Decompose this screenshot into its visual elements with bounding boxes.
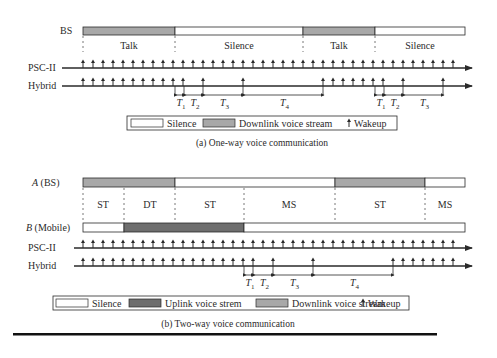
wakeup-arrow-icon — [421, 258, 425, 267]
state-labels: STDTSTMSSTMS — [97, 199, 452, 210]
wakeup-arrow-icon — [251, 258, 255, 267]
interval-label: T2 — [260, 277, 270, 291]
phase-label: Talk — [120, 40, 138, 51]
wakeup-arrow-icon — [221, 60, 225, 69]
legend-label-silence: Silence — [92, 298, 122, 309]
interval-label: T3 — [220, 97, 230, 111]
wakeup-arrow-icon — [181, 258, 185, 267]
wakeup-arrow-icon — [271, 258, 275, 267]
hybrid-label: Hybrid — [28, 80, 56, 91]
wakeup-arrow-icon — [361, 60, 365, 69]
wakeup-arrow-icon — [101, 240, 105, 249]
wakeup-arrow-icon — [391, 240, 395, 249]
legend-two-way: Silence Uplink voice strem Downlink voic… — [53, 296, 409, 310]
wakeup-arrow-icon — [281, 60, 285, 69]
wakeup-arrow-icon — [121, 78, 125, 87]
wakeup-arrow-icon — [311, 258, 315, 267]
wakeup-arrow-icon — [431, 240, 435, 249]
one-way-panel: BS TalkSilenceTalkSilence PSC-II Hybrid … — [28, 25, 472, 149]
psc-ii-label: PSC-II — [28, 242, 56, 253]
legend-swatch-downlink — [203, 119, 235, 127]
wakeup-arrow-icon — [201, 258, 205, 267]
wakeup-arrow-icon — [381, 78, 385, 87]
phase-labels: TalkSilenceTalkSilence — [120, 40, 435, 51]
hybrid-wakeup-arrows — [81, 78, 445, 87]
wakeup-arrow-icon — [281, 240, 285, 249]
psc-ii-wakeup-arrows — [81, 240, 455, 249]
wakeup-arrow-icon — [331, 240, 335, 249]
wakeup-arrow-icon — [191, 258, 195, 267]
wakeup-arrow-icon — [431, 60, 435, 69]
silence-segment — [375, 27, 465, 35]
wakeup-arrow-icon — [321, 78, 325, 87]
silence-segment — [175, 178, 335, 187]
a-bs-label: A (BS) — [31, 177, 60, 189]
interval-label: T4 — [280, 97, 290, 111]
wakeup-arrow-icon — [241, 60, 245, 69]
wakeup-arrow-icon — [231, 60, 235, 69]
wakeup-arrow-icon — [341, 78, 345, 87]
downlink-segment — [83, 178, 175, 187]
interval-label: T4 — [350, 277, 360, 291]
silence-segment — [425, 178, 465, 187]
wakeup-arrow-icon — [291, 60, 295, 69]
wakeup-arrow-icon — [391, 258, 395, 267]
wakeup-arrow-icon — [141, 60, 145, 69]
timer-intervals: T1T2T3T4 — [244, 266, 393, 291]
wakeup-arrow-icon — [241, 258, 245, 267]
phase-label: ST — [97, 199, 109, 210]
wakeup-arrow-icon — [131, 258, 135, 267]
wakeup-arrow-icon — [451, 258, 455, 267]
wakeup-arrow-icon — [321, 60, 325, 69]
wakeup-arrow-icon — [421, 60, 425, 69]
wakeup-arrow-icon — [401, 240, 405, 249]
wakeup-arrow-icon — [311, 240, 315, 249]
wakeup-arrow-icon — [141, 240, 145, 249]
wakeup-arrow-icon — [181, 78, 185, 87]
wakeup-arrow-icon — [171, 258, 175, 267]
silence-segment — [244, 223, 465, 232]
wakeup-arrow-icon — [81, 240, 85, 249]
phase-label: MS — [438, 199, 452, 210]
wakeup-arrow-icon — [91, 240, 95, 249]
caption-one-way: (a) One-way voice communication — [196, 138, 328, 149]
wakeup-arrow-icon — [401, 258, 405, 267]
timer-intervals: T1T2T3T4T1T2T3 — [175, 86, 443, 111]
phase-label: ST — [204, 199, 216, 210]
wakeup-arrow-icon — [211, 258, 215, 267]
wakeup-arrow-icon — [381, 60, 385, 69]
wakeup-arrow-icon — [151, 60, 155, 69]
wakeup-arrow-icon — [91, 258, 95, 267]
wakeup-arrow-icon — [271, 240, 275, 249]
interval-label: T3 — [420, 97, 430, 111]
psc-ii-wakeup-arrows — [81, 60, 455, 69]
wakeup-arrow-icon — [431, 258, 435, 267]
uplink-segment — [124, 223, 244, 232]
wakeup-arrow-icon — [211, 240, 215, 249]
wakeup-arrow-icon — [251, 60, 255, 69]
wakeup-arrow-icon — [201, 240, 205, 249]
wakeup-arrow-icon — [411, 258, 415, 267]
wakeup-arrow-icon — [411, 60, 415, 69]
wakeup-arrow-icon — [161, 258, 165, 267]
legend-swatch-silence — [56, 299, 88, 307]
wakeup-arrow-icon — [121, 60, 125, 69]
wakeup-arrow-icon — [161, 60, 165, 69]
wakeup-arrow-icon — [261, 60, 265, 69]
hybrid-wakeup-arrows — [81, 258, 455, 267]
wakeup-arrow-icon — [191, 60, 195, 69]
wakeup-arrow-icon — [171, 78, 175, 87]
wakeup-arrow-icon — [131, 78, 135, 87]
wakeup-arrow-icon — [271, 60, 275, 69]
wakeup-arrow-icon — [131, 240, 135, 249]
wakeup-arrow-icon — [101, 78, 105, 87]
wakeup-arrow-icon — [331, 78, 335, 87]
hybrid-label: Hybrid — [28, 260, 56, 271]
caption-two-way: (b) Two-way voice communication — [161, 319, 295, 330]
legend-label-wakeup: Wakeup — [368, 298, 401, 309]
bs-label: BS — [60, 25, 72, 36]
bottom-rule — [13, 333, 437, 336]
wakeup-arrow-icon — [441, 258, 445, 267]
wakeup-arrow-icon — [231, 240, 235, 249]
wakeup-arrow-icon — [361, 240, 365, 249]
